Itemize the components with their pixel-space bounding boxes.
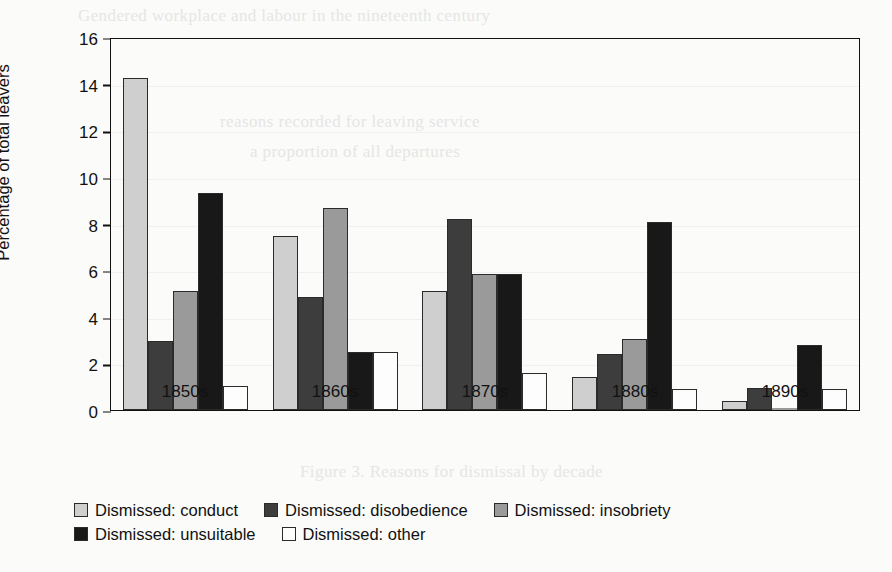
bar — [123, 78, 148, 410]
bar — [722, 401, 747, 410]
legend-swatch-icon — [494, 503, 508, 517]
y-axis-tick: 2 — [89, 357, 111, 374]
x-axis-label: 1890s — [710, 382, 860, 402]
x-axis-label: 1860s — [260, 382, 410, 402]
y-axis-tick-mark — [103, 178, 111, 180]
y-axis-tick-label: 0 — [89, 404, 98, 421]
legend-swatch-icon — [74, 503, 88, 517]
y-axis-tick-mark — [103, 225, 111, 227]
y-axis-tick: 12 — [79, 124, 111, 141]
bar-chart-figure: Gendered workplace and labour in the nin… — [0, 0, 892, 572]
x-axis-label: 1880s — [560, 382, 710, 402]
scan-ghost-text-top: Gendered workplace and labour in the nin… — [78, 6, 490, 26]
legend-label: Dismissed: insobriety — [515, 502, 671, 519]
x-axis-label: 1850s — [110, 382, 260, 402]
scan-ghost-text-bottom: Figure 3. Reasons for dismissal by decad… — [300, 462, 603, 482]
y-axis-tick-mark — [103, 411, 111, 413]
bar-group — [709, 39, 859, 410]
y-axis-title: Percentage of total leavers — [0, 0, 13, 378]
y-axis-tick-label: 10 — [79, 170, 98, 187]
y-axis-tick: 16 — [79, 31, 111, 48]
y-axis-tick-mark — [103, 132, 111, 134]
y-axis-tick-label: 6 — [89, 264, 98, 281]
legend-item: Dismissed: insobriety — [494, 502, 671, 519]
legend-swatch-icon — [264, 503, 278, 517]
legend-label: Dismissed: unsuitable — [95, 526, 256, 543]
bars-container — [111, 39, 859, 410]
y-axis-tick-label: 14 — [79, 77, 98, 94]
bar-group — [410, 39, 560, 410]
y-axis-tick-label: 2 — [89, 357, 98, 374]
y-axis-tick-mark — [103, 85, 111, 87]
y-axis-tick: 10 — [79, 170, 111, 187]
legend-swatch-icon — [282, 527, 296, 541]
legend-label: Dismissed: other — [303, 526, 426, 543]
bar-group — [560, 39, 710, 410]
bar — [198, 193, 223, 410]
legend-label: Dismissed: disobedience — [285, 502, 468, 519]
y-axis-tick-label: 16 — [79, 31, 98, 48]
y-axis-tick-mark — [103, 318, 111, 320]
y-axis-tick: 4 — [89, 310, 111, 327]
bar — [323, 208, 348, 410]
y-axis-tick-label: 8 — [89, 217, 98, 234]
legend-item: Dismissed: other — [282, 526, 426, 543]
legend-row: Dismissed: conductDismissed: disobedienc… — [74, 502, 864, 519]
y-axis-tick: 14 — [79, 77, 111, 94]
chart-legend: Dismissed: conductDismissed: disobedienc… — [74, 502, 864, 549]
y-axis-tick-label: 4 — [89, 310, 98, 327]
bar — [772, 408, 797, 410]
y-axis-tick: 8 — [89, 217, 111, 234]
plot-area: 0246810121416 — [110, 38, 860, 411]
legend-item: Dismissed: conduct — [74, 502, 238, 519]
legend-row: Dismissed: unsuitableDismissed: other — [74, 526, 864, 543]
bar-group — [111, 39, 261, 410]
legend-item: Dismissed: unsuitable — [74, 526, 256, 543]
legend-swatch-icon — [74, 527, 88, 541]
y-axis-tick-label: 12 — [79, 124, 98, 141]
y-axis-tick-mark — [103, 271, 111, 273]
legend-item: Dismissed: disobedience — [264, 502, 468, 519]
legend-label: Dismissed: conduct — [95, 502, 238, 519]
y-axis-tick-mark — [103, 365, 111, 367]
bar-group — [261, 39, 411, 410]
y-axis-tick: 6 — [89, 264, 111, 281]
y-axis-tick-mark — [103, 38, 111, 40]
y-axis-tick: 0 — [89, 404, 111, 421]
x-axis-label: 1870s — [410, 382, 560, 402]
